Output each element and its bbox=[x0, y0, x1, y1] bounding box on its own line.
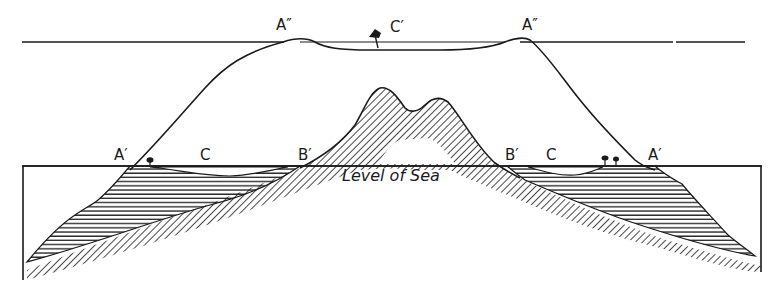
tree-icon bbox=[613, 157, 619, 167]
label-c-left: C bbox=[200, 148, 210, 163]
sea-level-label: Level of Sea bbox=[342, 168, 440, 184]
tree-icon bbox=[369, 29, 381, 48]
left-sediment-layers bbox=[27, 166, 300, 262]
label-b-prime-right: B′ bbox=[505, 148, 519, 163]
cross-section-diagram: A″ C′ A″ A′ C B′ B′ C A′ Level of Sea bbox=[0, 0, 778, 288]
label-a-prime-right: A′ bbox=[648, 148, 662, 163]
diagram-svg bbox=[0, 0, 778, 288]
label-a-double-prime-left: A″ bbox=[276, 18, 292, 33]
right-sediment-layers bbox=[507, 166, 755, 256]
label-a-double-prime-right: A″ bbox=[522, 18, 538, 33]
label-a-prime-left: A′ bbox=[114, 148, 128, 163]
label-c-right: C bbox=[546, 148, 556, 163]
label-b-prime-left: B′ bbox=[298, 148, 312, 163]
tree-icon bbox=[602, 156, 609, 167]
label-c-prime: C′ bbox=[390, 20, 404, 35]
tree-icon bbox=[147, 157, 154, 166]
